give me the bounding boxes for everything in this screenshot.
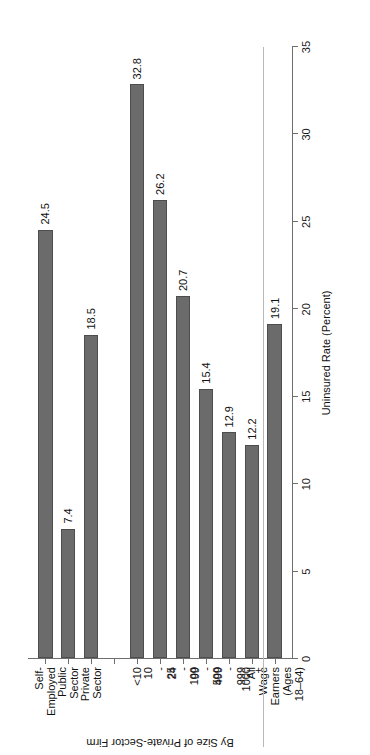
category-tick — [45, 658, 46, 664]
category-tick — [68, 658, 69, 664]
value-tick-label: 15 — [301, 391, 312, 403]
bar[interactable] — [199, 389, 213, 658]
value-tick-label: 30 — [301, 128, 312, 140]
category-tick — [229, 658, 230, 664]
category-label: Private Sector — [79, 667, 103, 701]
category-tick — [160, 658, 161, 664]
bar[interactable] — [176, 296, 190, 658]
bar[interactable] — [153, 200, 167, 658]
value-tick-label: 5 — [301, 569, 312, 575]
category-axis-title: By Size of Private-Sector Firm — [86, 737, 233, 749]
bar-slot: Self- Employed24.5 — [34, 47, 57, 658]
value-axis-spine — [292, 47, 293, 659]
category-label: All Wage Earners (Ages 18–64) — [245, 667, 305, 706]
bar-slot — [103, 47, 126, 658]
category-tick — [275, 658, 276, 664]
bar-slot: 1000 +12.2 — [240, 47, 263, 658]
bar-slot: 25 - 9920.7 — [171, 47, 194, 658]
bar-value-label: 12.9 — [223, 406, 234, 427]
bar-slot: All Wage Earners (Ages 18–64)19.1 — [263, 47, 286, 658]
bar-value-label: 26.2 — [154, 173, 165, 194]
bar-value-label: 18.5 — [86, 308, 97, 329]
category-label: Public Sector — [56, 667, 80, 699]
bar[interactable] — [245, 445, 259, 658]
bar[interactable] — [267, 324, 281, 658]
bar-value-label: 32.8 — [132, 58, 143, 79]
bar[interactable] — [61, 529, 75, 658]
category-tick — [114, 658, 115, 664]
bar-slot: 10 - 2426.2 — [149, 47, 172, 658]
bar-value-label: 12.2 — [246, 418, 257, 439]
category-tick — [252, 658, 253, 664]
chart-canvas: 05101520253035 Self- Employed24.5Public … — [0, 0, 370, 755]
bar[interactable] — [38, 230, 52, 658]
rotated-chart-container: 05101520253035 Self- Employed24.5Public … — [0, 0, 370, 755]
bar-value-label: 7.4 — [63, 508, 74, 523]
value-tick-label: 35 — [301, 41, 312, 53]
bar-value-label: 19.1 — [269, 298, 280, 319]
bar-slot: Private Sector18.5 — [80, 47, 103, 658]
value-tick-label: 10 — [301, 478, 312, 490]
bar-series: Self- Employed24.5Public Sector7.4Privat… — [34, 47, 286, 658]
group-separator — [263, 47, 264, 747]
bar-slot: 100 - 49915.4 — [194, 47, 217, 658]
bar[interactable] — [222, 432, 236, 658]
plot-area: 05101520253035 Self- Employed24.5Public … — [34, 47, 286, 659]
bar-slot: <1032.8 — [126, 47, 149, 658]
bar[interactable] — [130, 84, 144, 658]
bar-slot: 500 - 99912.9 — [217, 47, 240, 658]
category-tick — [183, 658, 184, 664]
bar-value-label: 15.4 — [200, 362, 211, 383]
value-axis-title: Uninsured Rate (Percent) — [320, 291, 332, 416]
category-tick — [137, 658, 138, 664]
value-tick-label: 25 — [301, 216, 312, 228]
bar-value-label: 20.7 — [177, 270, 188, 291]
value-tick-label: 20 — [301, 303, 312, 315]
bar-slot: Public Sector7.4 — [57, 47, 80, 658]
bar[interactable] — [84, 335, 98, 658]
category-tick — [206, 658, 207, 664]
bar-value-label: 24.5 — [40, 203, 51, 224]
category-label: Self- Employed — [33, 667, 57, 716]
category-tick — [91, 658, 92, 664]
value-tick-label: 0 — [301, 656, 312, 662]
